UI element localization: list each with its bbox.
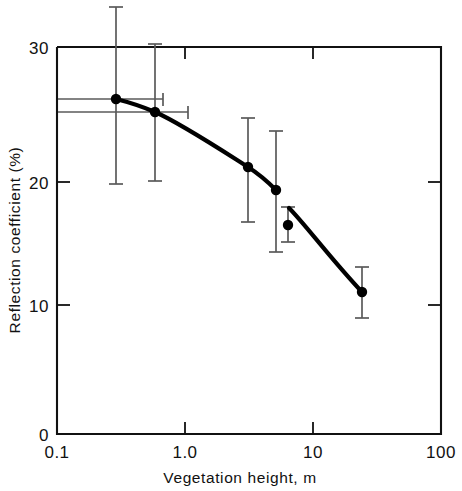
- data-point: [271, 185, 281, 195]
- x-tick-label-1-0: 1.0: [172, 443, 197, 462]
- y-axis-ticks: [57, 182, 70, 305]
- data-point: [283, 220, 293, 230]
- x-axis-ticks: [185, 422, 313, 434]
- reflection-coefficient-chart: 30 20 10 0 0.1 1.0 10 100 Vegetation hei…: [0, 0, 462, 491]
- y-tick-label-10: 10: [29, 297, 49, 316]
- x-tick-label-100: 100: [426, 443, 456, 462]
- axes-rectangle: [57, 47, 441, 434]
- data-point: [111, 94, 121, 104]
- fitted-curve: [116, 99, 362, 292]
- y-tick-labels: 30 20 10 0: [29, 39, 49, 445]
- error-bars: [58, 7, 369, 318]
- plot-frame: [57, 47, 441, 434]
- y-tick-label-30: 30: [29, 39, 49, 58]
- data-point: [357, 287, 367, 297]
- data-points: [111, 94, 367, 297]
- x-tick-label-10: 10: [303, 443, 323, 462]
- y-tick-label-20: 20: [29, 174, 49, 193]
- y-axis-ticks-right: [428, 182, 441, 305]
- figure-container: 30 20 10 0 0.1 1.0 10 100 Vegetation hei…: [0, 0, 462, 491]
- x-axis-ticks-top: [185, 47, 313, 59]
- data-point: [243, 162, 253, 172]
- data-point: [150, 107, 160, 117]
- x-tick-labels: 0.1 1.0 10 100: [44, 443, 456, 462]
- y-axis-title: Reflection coefficient (%): [6, 147, 23, 334]
- error-bar-horizontal-1: [58, 93, 163, 106]
- x-axis-title: Vegetation height, m: [163, 469, 316, 486]
- trend-line: [116, 99, 362, 292]
- x-tick-label-0-1: 0.1: [44, 443, 69, 462]
